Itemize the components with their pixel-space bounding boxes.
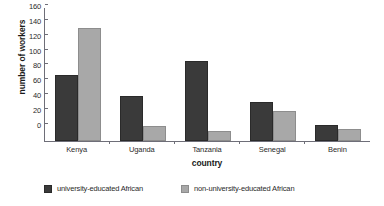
y-axis-tick-label: 60	[33, 76, 45, 85]
bar-chart: number of workers 0204060801001201401601…	[0, 0, 384, 206]
x-axis-tick-label: Benin	[305, 145, 370, 154]
legend-swatch-icon	[44, 185, 52, 193]
y-axis-tick-label: 160	[29, 2, 45, 11]
y-axis-tick-label: 40	[33, 91, 45, 100]
legend-swatch-icon	[181, 185, 189, 193]
bar-group	[305, 8, 370, 141]
bar	[273, 111, 296, 141]
legend-label: university-educated African	[57, 184, 143, 193]
x-axis-tick-mark	[174, 141, 175, 144]
legend-item-series-0: university-educated African	[44, 184, 143, 193]
bar-groups	[45, 8, 370, 141]
x-axis-tick-mark	[109, 141, 110, 144]
x-axis-tick-label: Tanzania	[174, 145, 239, 154]
y-axis-tick-label: 100	[29, 47, 45, 56]
y-axis-tick-label: 0	[37, 121, 45, 130]
x-axis-tick-mark	[239, 141, 240, 144]
bar	[55, 75, 78, 141]
y-axis-tick-mark	[45, 4, 48, 5]
x-axis-tick-mark	[304, 141, 305, 144]
y-axis-tick-label: 140	[29, 17, 45, 26]
bar	[315, 125, 338, 141]
chart-legend: university-educated African non-universi…	[44, 184, 370, 193]
bar	[338, 129, 361, 141]
x-axis-tick-label: Kenya	[44, 145, 109, 154]
y-axis-tick-label: 120	[29, 32, 45, 41]
legend-item-series-1: non-university-educated African	[181, 184, 294, 193]
bar-group	[240, 8, 305, 141]
x-axis-tick-label: Senegal	[240, 145, 305, 154]
plot-area: 020406080100120140160180	[44, 8, 370, 142]
bar	[120, 96, 143, 141]
y-axis-tick-label: 80	[33, 61, 45, 70]
y-axis-title: number of workers	[17, 0, 27, 117]
bar-group	[45, 8, 110, 141]
bar	[250, 102, 273, 141]
bar	[78, 28, 101, 141]
x-axis-tick-labels: KenyaUgandaTanzaniaSenegalBenin	[44, 145, 370, 154]
x-axis-title: country	[44, 158, 370, 168]
bar	[143, 126, 166, 141]
legend-label: non-university-educated African	[194, 184, 294, 193]
bar	[185, 61, 208, 141]
y-axis-tick-label: 20	[33, 106, 45, 115]
bar-group	[110, 8, 175, 141]
bar-group	[175, 8, 240, 141]
bar	[208, 131, 231, 141]
x-axis-tick-label: Uganda	[109, 145, 174, 154]
y-axis-tick: 160	[29, 0, 45, 13]
